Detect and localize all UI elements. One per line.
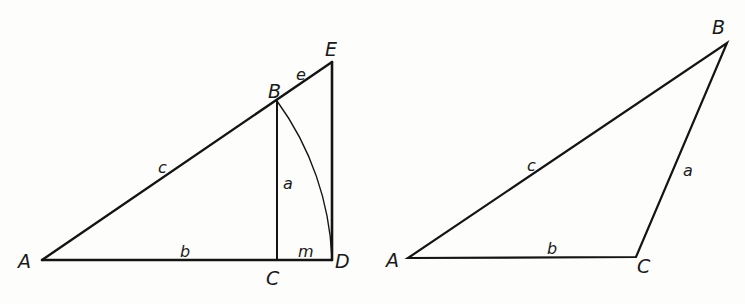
point-label-A: A xyxy=(16,250,31,272)
left-figure: A B C D E c b a e m xyxy=(16,38,350,289)
side-label-b: b xyxy=(547,239,557,258)
point-label-C: C xyxy=(637,255,651,277)
side-label-c: c xyxy=(527,156,536,175)
side-label-c: c xyxy=(158,158,167,177)
triangle-ABC xyxy=(408,43,727,258)
side-label-m: m xyxy=(298,242,314,261)
point-label-C: C xyxy=(266,267,280,289)
point-label-E: E xyxy=(325,38,337,60)
side-label-a: a xyxy=(283,174,293,193)
segment-AE xyxy=(42,62,332,260)
right-figure: A B C c b a xyxy=(384,16,727,277)
point-label-B: B xyxy=(712,16,725,38)
side-label-b: b xyxy=(180,242,190,261)
triangle-diagrams: A B C D E c b a e m A B C c b a xyxy=(0,0,745,304)
side-label-e: e xyxy=(296,65,306,84)
point-label-D: D xyxy=(335,250,350,272)
point-label-B: B xyxy=(268,80,281,102)
point-label-A: A xyxy=(384,249,399,271)
diagram-canvas: A B C D E c b a e m A B C c b a xyxy=(0,0,745,304)
side-label-a: a xyxy=(683,161,693,180)
